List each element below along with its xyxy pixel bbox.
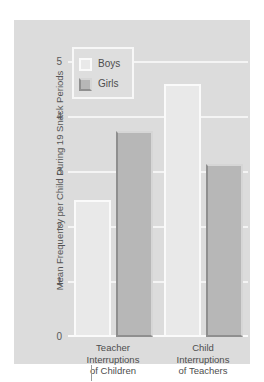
x-axis-category-line: Interruptions xyxy=(157,354,249,366)
y-axis-tick-label: 5 xyxy=(56,57,62,67)
bar-boys-group2 xyxy=(164,84,201,337)
legend-label-boys: Boys xyxy=(98,59,120,69)
bottom-tick-mark xyxy=(91,365,92,381)
legend-swatch-boys xyxy=(79,58,92,71)
legend-swatch-girls xyxy=(79,78,92,91)
y-axis-tick-label: 1 xyxy=(56,277,62,287)
figure: Mean Frequency per Child During 19 Snack… xyxy=(0,0,264,382)
bar-girls-group2 xyxy=(206,164,243,337)
gridline xyxy=(68,116,248,118)
legend-label-girls: Girls xyxy=(98,79,119,89)
plot-area: 012345 xyxy=(68,62,248,337)
y-axis-tick-label: 4 xyxy=(56,112,62,122)
bar-girls-group1 xyxy=(116,131,153,337)
chart-legend: Boys Girls xyxy=(72,47,134,99)
x-axis-category-label: ChildInterruptionsof Teachers xyxy=(157,342,249,377)
y-axis-tick-label: 0 xyxy=(56,332,62,342)
y-axis-tick-label: 2 xyxy=(56,222,62,232)
legend-item-girls: Girls xyxy=(79,74,132,94)
x-axis-category-label: TeacherInterruptionsof Children xyxy=(67,342,159,377)
x-axis-category-line: Teacher xyxy=(67,342,159,354)
legend-item-boys: Boys xyxy=(79,54,132,74)
bar-boys-group1 xyxy=(74,200,111,338)
x-axis-category-line: Interruptions xyxy=(67,354,159,366)
x-axis-category-line: of Children xyxy=(67,365,159,377)
y-axis-tick-label: 3 xyxy=(56,167,62,177)
x-axis-category-line: of Teachers xyxy=(157,365,249,377)
x-axis-category-line: Child xyxy=(157,342,249,354)
chart-panel: Mean Frequency per Child During 19 Snack… xyxy=(14,20,250,364)
